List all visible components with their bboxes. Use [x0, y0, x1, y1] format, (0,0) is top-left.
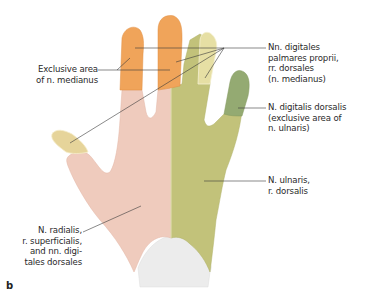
index-finger-median-exclusive: [120, 27, 144, 90]
panel-letter: b: [6, 280, 13, 291]
label-exclusive-area-median: Exclusive area of n. medianus: [14, 64, 98, 85]
label-n-digitalis-dorsalis: N. digitalis dorsalis (exclusive area of…: [268, 102, 346, 134]
label-nn-digitales-palmares: Nn. digitales palmares proprii, rr. dors…: [268, 42, 339, 84]
thumb-median-tip: [52, 130, 88, 153]
label-n-ulnaris: N. ulnaris, r. dorsalis: [268, 175, 310, 196]
middle-finger-median-exclusive: [158, 16, 182, 90]
little-finger-ulnar-exclusive: [224, 70, 249, 116]
label-n-radialis: N. radialis, r. superficialis, and nn. d…: [4, 225, 82, 267]
